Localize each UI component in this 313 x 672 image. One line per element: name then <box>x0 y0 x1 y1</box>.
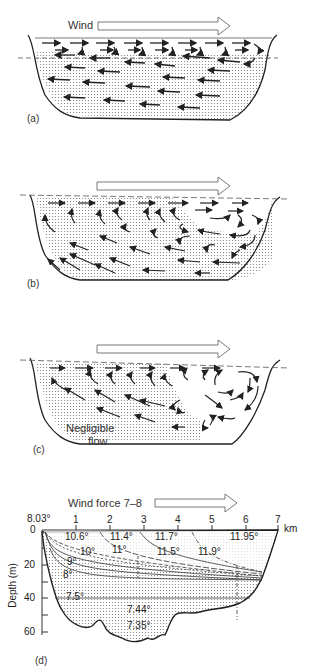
isotherm-9: 9° <box>67 556 77 567</box>
x-unit: km <box>284 523 297 534</box>
x-tick-3: 3 <box>141 514 147 525</box>
isotherm-10: 10° <box>80 546 95 557</box>
surface-temp-left: 8.03° <box>27 513 50 524</box>
isotherm-11-9: 11.9° <box>198 546 221 557</box>
x-tick-1: 1 <box>73 514 79 525</box>
y-tick-40: 40 <box>24 592 35 603</box>
isotherm-11-7: 11.7° <box>155 531 178 542</box>
y-tick-60: 60 <box>24 626 35 637</box>
y-tick-20: 20 <box>24 559 35 570</box>
panel-b: (b) <box>0 140 313 300</box>
isotherm-11: 11° <box>112 544 126 555</box>
panel-d: Wind force 7–8 8.03° 1 2 3 4 5 6 7 km 0 … <box>0 460 313 672</box>
isotherm-10-6: 10.6° <box>65 531 88 542</box>
lake-cross-section-a <box>0 0 313 140</box>
y-axis-label: Depth (m) <box>7 563 18 607</box>
y-tick-0: 0 <box>30 524 36 535</box>
wind-label: Wind <box>68 19 93 31</box>
panel-label-d: (d) <box>35 655 47 666</box>
panel-label-c: (c) <box>33 444 45 455</box>
panel-label-a: (a) <box>27 113 39 124</box>
x-tick-2: 2 <box>107 514 113 525</box>
isotherm-7-35: 7.35° <box>127 620 150 631</box>
x-tick-5: 5 <box>209 514 215 525</box>
isotherm-7-5: 7.5° <box>66 591 84 602</box>
panel-label-b: (b) <box>27 278 39 289</box>
isotherm-11-5: 11.5° <box>157 546 180 557</box>
temperature-section-d <box>0 460 313 672</box>
panel-c: Negligible flow (c) <box>0 300 313 460</box>
isotherm-11-95: 11.95° <box>230 531 258 542</box>
wind-force-label: Wind force 7–8 <box>68 497 142 509</box>
isotherm-7-44: 7.44° <box>127 604 150 615</box>
lake-cross-section-c <box>0 300 313 460</box>
isotherm-11-4: 11.4° <box>110 531 133 542</box>
negligible-flow-line2: flow <box>88 435 108 447</box>
panel-a: Wind (a) <box>0 0 313 140</box>
x-tick-4: 4 <box>175 514 181 525</box>
negligible-flow-line1: Negligible <box>66 422 114 434</box>
x-tick-6: 6 <box>243 514 249 525</box>
lake-cross-section-b <box>0 140 313 300</box>
isotherm-8: 8° <box>63 569 73 580</box>
x-tick-7: 7 <box>275 514 281 525</box>
